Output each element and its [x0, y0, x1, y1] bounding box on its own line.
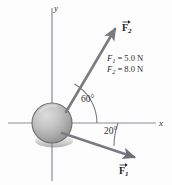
magnitude-F2-value: 8.0 N — [124, 64, 143, 74]
vector-overbar-arrow-icon — [119, 162, 128, 167]
magnitude-line-F2: F2=8.0 N — [107, 65, 143, 75]
vector-label-F2: F2 — [122, 23, 132, 35]
magnitude-line-F1: F1=5.0 N — [107, 54, 143, 64]
vector-label-F1-subscript: 1 — [125, 170, 129, 178]
magnitude-F1-equals: = — [115, 53, 124, 63]
angle-label-20: 20° — [104, 127, 117, 137]
vector-label-F1: F1 — [119, 166, 129, 178]
force-diagram-canvas — [0, 0, 172, 185]
magnitude-F1-value: 5.0 N — [124, 53, 143, 63]
magnitude-F2-equals: = — [115, 64, 124, 74]
y-axis-label: y — [54, 4, 58, 13]
vector-label-F2-subscript: 2 — [128, 27, 132, 35]
angle-label-60: 60° — [81, 95, 94, 105]
x-axis-label: x — [159, 119, 163, 128]
force-diagram-figure: y x 60° 20° F2 F1 F1=5.0 N F2=8.0 N — [0, 0, 172, 185]
sphere-object — [32, 103, 72, 143]
vector-F1 — [62, 133, 134, 157]
vector-overbar-arrow-icon — [122, 19, 131, 24]
